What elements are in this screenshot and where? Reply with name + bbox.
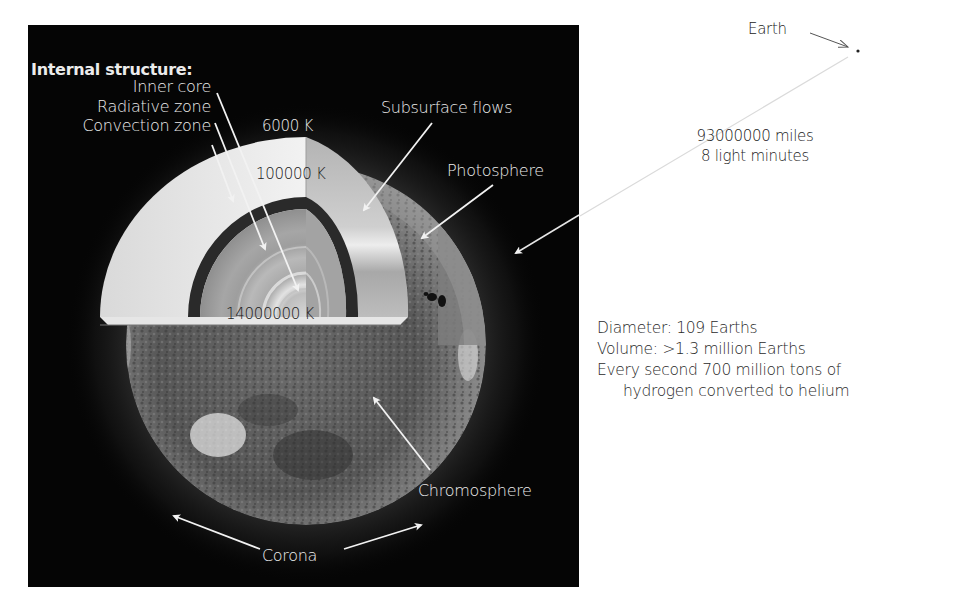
fact-fusion-rate-continued: hydrogen converted to helium (597, 381, 849, 402)
inner-core-label: Inner core (28, 77, 211, 96)
subsurface-flows-label: Subsurface flows (381, 98, 512, 117)
fact-fusion-rate: Every second 700 million tons of (597, 360, 849, 381)
earth-distance-miles: 93000000 miles (675, 127, 835, 145)
earth-distance-arrow-tip (516, 215, 579, 253)
fact-volume: Volume: >1.3 million Earths (597, 339, 849, 360)
photosphere-label: Photosphere (447, 161, 544, 180)
convection-zone-label: Convection zone (28, 116, 211, 135)
earth-dot (856, 49, 859, 52)
fact-diameter: Diameter: 109 Earths (597, 318, 849, 339)
convection-base-temperature-label: 100000 K (256, 165, 325, 183)
corona-label: Corona (262, 546, 317, 565)
earth-distance-light-minutes: 8 light minutes (675, 147, 835, 165)
radiative-zone-label: Radiative zone (28, 97, 211, 116)
sun-diagram-panel: Internal structure: Inner core Radiative… (28, 25, 579, 587)
chromosphere-label: Chromosphere (418, 481, 532, 500)
earth-label: Earth (748, 20, 787, 38)
surface-temperature-label: 6000 K (262, 117, 313, 135)
sun-facts: Diameter: 109 Earths Volume: >1.3 millio… (597, 318, 849, 402)
core-temperature-label: 14000000 K (226, 305, 314, 323)
